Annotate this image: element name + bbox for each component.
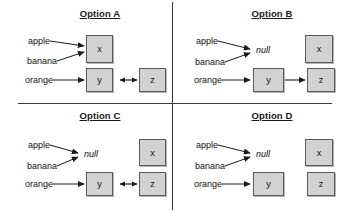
node-box-z-c: z [139, 172, 166, 196]
edge-banana-to-null [57, 157, 78, 166]
edge-banana-to-null [225, 53, 250, 62]
node-box-y-a: y [86, 68, 113, 92]
key-label-banana-a: banana [0, 56, 57, 66]
quadrant-title-option-d: Option D [238, 110, 306, 121]
figure-root: Option A apple banana orange x y z Optio… [0, 0, 346, 212]
node-label-y-a: y [97, 75, 102, 85]
key-label-orange-b: orange [168, 75, 222, 85]
node-box-y-c: y [86, 172, 113, 196]
node-box-x-b: x [305, 35, 333, 63]
edge-banana-to-null [225, 157, 250, 166]
node-box-z-a: z [139, 68, 166, 92]
node-label-z-a: z [150, 75, 155, 85]
node-box-x-c: x [139, 139, 166, 166]
node-label-y-c: y [97, 179, 102, 189]
node-label-y-b: y [266, 75, 271, 85]
edge-apple-to-null [218, 145, 250, 153]
node-label-y-d: y [266, 179, 271, 189]
edge-banana-to-x [57, 52, 84, 61]
edge-apple-to-null [50, 145, 78, 153]
node-box-y-d: y [253, 172, 284, 196]
node-label-z-d: z [319, 179, 324, 189]
quadrant-title-option-b: Option B [238, 8, 306, 19]
key-label-orange-a: orange [0, 75, 53, 85]
key-label-apple-a: apple [0, 36, 50, 46]
node-box-y-b: y [253, 68, 284, 92]
node-label-z-c: z [150, 179, 155, 189]
node-label-x-a: x [97, 44, 102, 54]
node-box-x-a: x [86, 35, 113, 63]
key-label-banana-c: banana [0, 161, 57, 171]
key-label-orange-c: orange [0, 179, 53, 189]
node-box-z-d: z [307, 172, 335, 196]
edge-apple-to-null [218, 41, 250, 49]
key-label-apple-b: apple [168, 36, 218, 46]
key-label-apple-d: apple [168, 140, 218, 150]
null-label-c: null [84, 149, 98, 159]
node-label-z-b: z [319, 75, 324, 85]
quadrant-title-option-a: Option A [66, 8, 134, 19]
key-label-apple-c: apple [0, 140, 50, 150]
key-label-orange-d: orange [168, 179, 222, 189]
key-label-banana-d: banana [168, 161, 225, 171]
node-label-x-c: x [150, 148, 155, 158]
node-box-z-b: z [307, 68, 335, 92]
key-label-banana-b: banana [168, 57, 225, 67]
node-label-x-d: x [317, 148, 322, 158]
null-label-d: null [256, 149, 270, 159]
node-label-x-b: x [317, 44, 322, 54]
quadrant-title-option-c: Option C [66, 110, 134, 121]
edge-apple-to-x [50, 41, 84, 46]
node-box-x-d: x [305, 139, 333, 166]
null-label-b: null [256, 45, 270, 55]
